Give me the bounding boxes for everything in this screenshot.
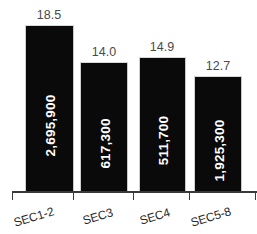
plot-area: 18.5 2,695,900 14.0 617,300 14.9 511,700… bbox=[0, 0, 257, 192]
x-axis-tick bbox=[133, 192, 134, 200]
x-axis-tick bbox=[12, 192, 13, 200]
x-axis-line bbox=[12, 191, 257, 193]
bar-sec5-8[interactable]: 1,925,300 bbox=[194, 76, 242, 192]
x-axis-category-label: SEC1-2 bbox=[12, 204, 56, 229]
bar-chart: 18.5 2,695,900 14.0 617,300 14.9 511,700… bbox=[0, 0, 257, 234]
bar-inner-label: 1,925,300 bbox=[212, 88, 227, 213]
x-axis-category-label: SEC3 bbox=[81, 205, 115, 227]
x-axis-category-label: SEC5-8 bbox=[189, 204, 233, 229]
bar-sec4[interactable]: 511,700 bbox=[139, 57, 186, 192]
x-axis-tick bbox=[73, 192, 74, 200]
x-axis-tick bbox=[189, 192, 190, 200]
bar-inner-label: 617,300 bbox=[98, 93, 113, 195]
bar-value-label: 14.0 bbox=[73, 45, 135, 59]
bar-value-label: 14.9 bbox=[131, 40, 193, 54]
bar-inner-label: 511,700 bbox=[156, 90, 171, 191]
x-axis-category-label: SEC4 bbox=[138, 205, 172, 227]
bar-value-label: 18.5 bbox=[18, 8, 80, 22]
bar-sec3[interactable]: 617,300 bbox=[80, 62, 128, 192]
bar-value-label: 12.7 bbox=[187, 59, 249, 73]
bar-inner-label: 2,695,900 bbox=[43, 63, 58, 188]
x-axis-tick bbox=[255, 192, 256, 200]
bar-sec1-2[interactable]: 2,695,900 bbox=[25, 25, 74, 192]
